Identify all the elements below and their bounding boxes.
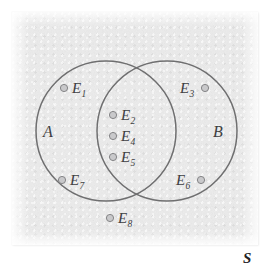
set-circle-a	[36, 61, 176, 201]
point-label-e2-base: E	[121, 107, 130, 123]
point-dot-e4	[109, 132, 116, 139]
point-dot-e5	[109, 153, 116, 160]
point-label-e5-base: E	[121, 149, 130, 165]
point-label-e2-sub: 2	[131, 116, 136, 126]
point-label-e6-base: E	[176, 172, 185, 188]
point-label-e8-sub: 8	[128, 219, 133, 229]
set-label-b: B	[213, 124, 223, 140]
set-label-a: A	[43, 124, 53, 140]
point-label-e4: E4	[121, 129, 135, 144]
venn-diagram-canvas	[0, 0, 275, 278]
point-label-e5: E5	[121, 150, 135, 165]
point-dot-e6	[197, 176, 204, 183]
point-label-e3-base: E	[180, 80, 189, 96]
point-label-e3: E3	[180, 81, 194, 96]
sample-space-label: S	[243, 251, 251, 266]
point-dot-e7	[58, 176, 65, 183]
point-label-e1: E1	[72, 81, 86, 96]
point-label-e2: E2	[121, 108, 135, 123]
point-label-e8-base: E	[118, 210, 127, 226]
point-dot-e2	[109, 111, 116, 118]
point-label-e5-sub: 5	[131, 158, 136, 168]
point-label-e4-base: E	[121, 128, 130, 144]
venn-diagram-figure: E1 E2 E3 E4 E5 E6 E7 E8 A B S	[0, 0, 275, 278]
point-label-e4-sub: 4	[131, 137, 136, 147]
point-label-e3-sub: 3	[190, 89, 195, 99]
point-label-e7-sub: 7	[80, 181, 85, 191]
point-label-e6: E6	[176, 173, 190, 188]
point-label-e6-sub: 6	[186, 181, 191, 191]
point-dot-e1	[60, 84, 67, 91]
point-dot-e3	[201, 84, 208, 91]
point-dot-e8	[106, 214, 113, 221]
point-label-e8: E8	[118, 211, 132, 226]
point-label-e1-base: E	[72, 80, 81, 96]
point-label-e7: E7	[70, 173, 84, 188]
point-label-e7-base: E	[70, 172, 79, 188]
point-label-e1-sub: 1	[82, 89, 87, 99]
